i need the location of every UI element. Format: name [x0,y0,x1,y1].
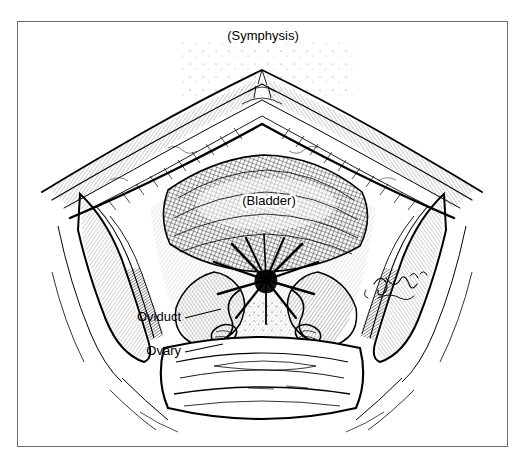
figure-root: (Symphysis)(Bladder)(Bladder)OviductOvar… [0,0,525,463]
label-oviduct: Oviduct [137,309,181,324]
figure-frame: (Symphysis)(Bladder)(Bladder)OviductOvar… [17,21,508,447]
label-symphysis: (Symphysis) [227,28,299,43]
label-ovary: Ovary [146,343,181,358]
anatomical-illustration: (Symphysis)(Bladder)(Bladder)OviductOvar… [18,22,507,446]
retractor-blade [161,337,363,419]
label-bladder: (Bladder) [242,193,295,208]
